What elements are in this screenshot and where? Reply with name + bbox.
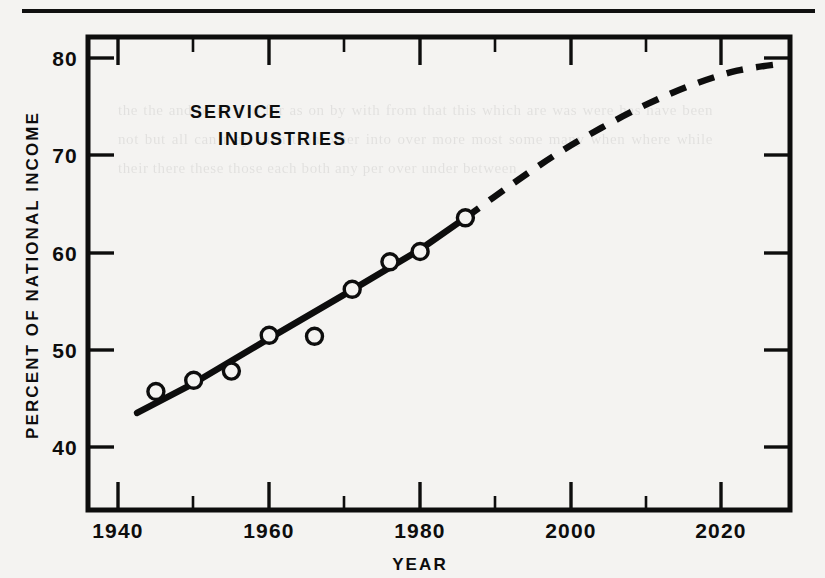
y-tick-label-60: 60 (52, 242, 78, 265)
y-tick-label-50: 50 (52, 339, 78, 362)
scanned-page: the the and of in a to for as on by with… (0, 0, 825, 578)
x-tick-label-1960: 1960 (243, 519, 295, 542)
data-point-marker (344, 281, 360, 297)
projection-dashed-line (465, 64, 782, 218)
x-axis-tick-labels: 1940 1960 1980 2000 2020 (92, 519, 747, 542)
series-label-line1: SERVICE (190, 102, 283, 122)
data-point-markers (148, 210, 474, 400)
x-tick-label-1940: 1940 (92, 519, 144, 542)
x-axis-ticks-bottom-major (118, 482, 721, 510)
y-tick-label-80: 80 (52, 47, 78, 70)
y-axis-ticks-left (88, 58, 114, 447)
x-tick-label-2020: 2020 (695, 519, 747, 542)
data-point-marker (307, 328, 323, 344)
x-axis-title: YEAR (392, 555, 448, 574)
figure-container: 80 70 60 50 40 1940 1960 1980 2000 2020 … (0, 0, 825, 578)
data-point-marker (412, 244, 428, 260)
y-tick-label-40: 40 (52, 436, 78, 459)
data-point-marker (148, 384, 164, 400)
service-industries-line-chart: 80 70 60 50 40 1940 1960 1980 2000 2020 … (0, 0, 825, 578)
data-point-marker (223, 363, 239, 379)
series-label-line2: INDUSTRIES (218, 129, 347, 149)
x-tick-label-2000: 2000 (545, 519, 597, 542)
y-axis-title: PERCENT OF NATIONAL INCOME (23, 111, 42, 439)
data-point-marker (186, 372, 202, 388)
y-axis-ticks-right (764, 58, 790, 447)
y-axis-tick-labels: 80 70 60 50 40 (52, 47, 78, 459)
x-tick-label-1980: 1980 (394, 519, 446, 542)
data-point-marker (382, 254, 398, 270)
data-point-marker (457, 210, 473, 226)
x-axis-ticks-top-major (118, 37, 721, 65)
y-tick-label-70: 70 (52, 144, 78, 167)
data-point-marker (261, 327, 277, 343)
